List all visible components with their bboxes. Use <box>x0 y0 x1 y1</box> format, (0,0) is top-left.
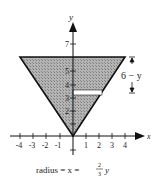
svg-text:-1: -1 <box>55 141 62 150</box>
x-axis-label: x <box>146 132 151 141</box>
x-axis-arrow-icon <box>135 132 145 140</box>
x-tick-labels: -4 -3 -2 -1 1 2 3 4 <box>16 141 127 150</box>
caption-prefix: radius = x = <box>36 165 79 175</box>
svg-text:1: 1 <box>84 141 88 150</box>
svg-text:2: 2 <box>97 141 101 150</box>
svg-text:3: 3 <box>65 94 69 103</box>
dimension-label: 6 − y <box>121 70 142 81</box>
svg-text:3: 3 <box>110 141 114 150</box>
svg-text:-2: -2 <box>42 141 49 150</box>
svg-text:2: 2 <box>65 107 69 116</box>
strip <box>73 90 102 95</box>
svg-text:4: 4 <box>65 81 69 90</box>
caption-fraction-numerator: 2 <box>98 162 101 168</box>
svg-text:7: 7 <box>65 40 69 49</box>
y-axis-label: y <box>68 12 73 22</box>
svg-text:5: 5 <box>65 67 69 76</box>
caption-fraction-denominator: 3 <box>98 171 101 177</box>
svg-text:-3: -3 <box>29 141 36 150</box>
diagram-canvas: y x -4 -3 -2 -1 1 2 3 4 2 3 4 5 <box>0 0 157 183</box>
svg-text:4: 4 <box>123 141 127 150</box>
svg-text:-4: -4 <box>16 141 23 150</box>
caption-suffix: y <box>104 165 109 175</box>
y-axis-arrow-icon <box>69 22 77 32</box>
